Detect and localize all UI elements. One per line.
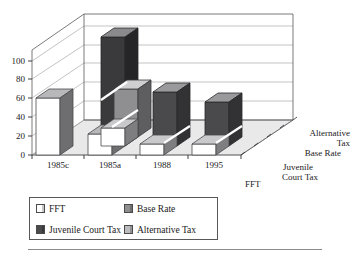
legend-label-fft: FFT [49, 204, 65, 214]
legend-swatch-juvenile-court-tax [36, 225, 45, 234]
legend-swatch-alternative-tax [124, 225, 133, 234]
x-tick-1988: 1988 [142, 161, 182, 170]
bar-1985c-fft [36, 89, 73, 155]
x-tick-1995: 1995 [194, 161, 234, 170]
legend-item-juvenile-court-tax[interactable]: Juvenile Court Tax [36, 225, 124, 235]
y-tick-0: 0 [1, 151, 25, 160]
chart-legend: FFT Base Rate Juvenile Court Tax Alterna… [29, 197, 218, 240]
legend-swatch-base-rate [124, 204, 133, 213]
bottom-rule [28, 249, 322, 250]
y-tick-40: 40 [1, 113, 25, 122]
x-tick-1985c: 1985c [38, 161, 78, 170]
y-tick-20: 20 [1, 132, 25, 141]
figure: 100 80 60 40 20 0 1985c 1985a 1988 1995 … [0, 0, 351, 257]
z-label-juvenile-line1: Juvenile [250, 162, 313, 172]
z-label-fft: FFT [245, 179, 285, 189]
x-tick-1985a: 1985a [90, 161, 130, 170]
legend-item-fft[interactable]: FFT [36, 204, 124, 214]
legend-label-juvenile-court-tax: Juvenile Court Tax [49, 225, 121, 235]
legend-item-alternative-tax[interactable]: Alternative Tax [124, 225, 225, 235]
x-axis-ticks [32, 155, 241, 159]
z-label-alternative-tax-line1: Alternative [288, 128, 350, 138]
y-axis-ticks [28, 61, 32, 155]
y-tick-80: 80 [1, 75, 25, 84]
z-label-alternative-tax-line2: Tax [288, 138, 350, 148]
y-tick-60: 60 [1, 94, 25, 103]
z-label-base-rate: Base Rate [278, 148, 341, 158]
legend-label-alternative-tax: Alternative Tax [137, 225, 196, 235]
legend-swatch-fft [36, 204, 45, 213]
legend-item-base-rate[interactable]: Base Rate [124, 204, 225, 214]
legend-label-base-rate: Base Rate [137, 204, 175, 214]
y-tick-100: 100 [1, 57, 25, 66]
